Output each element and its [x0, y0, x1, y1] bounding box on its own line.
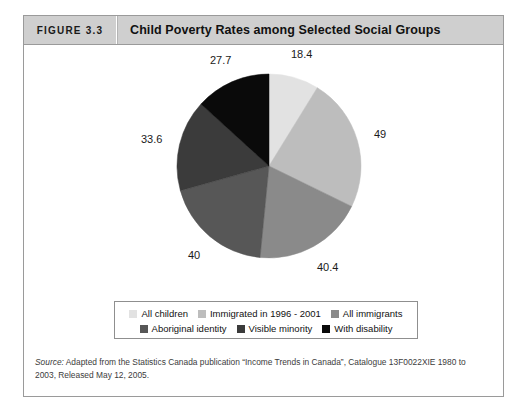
source-note: Source: Adapted from the Statistics Cana… [35, 356, 487, 381]
pie-chart [176, 73, 362, 259]
legend-row: All childrenImmigrated in 1996 - 2001All… [123, 306, 409, 321]
pie-slice-group [177, 74, 361, 258]
pie-slice-value-label: 40.4 [317, 261, 338, 273]
legend-item: Aboriginal identity [140, 323, 227, 334]
legend-item: With disability [322, 323, 392, 334]
legend-color-swatch [331, 310, 339, 318]
legend-item-label: Visible minority [249, 323, 313, 334]
legend-color-swatch [322, 325, 330, 333]
pie-slice-value-label: 27.7 [210, 54, 231, 66]
legend-color-swatch [129, 310, 137, 318]
pie-slice-value-label: 40 [188, 249, 200, 261]
legend-item: All immigrants [331, 308, 403, 319]
legend-item: Immigrated in 1996 - 2001 [198, 308, 321, 319]
source-label: Source: [35, 357, 64, 367]
chart-legend: All childrenImmigrated in 1996 - 2001All… [114, 301, 418, 339]
pie-slice-value-label: 33.6 [141, 133, 162, 145]
source-text: Adapted from the Statistics Canada publi… [35, 357, 466, 380]
pie-slice-value-label: 18.4 [291, 48, 312, 60]
legend-item-label: Immigrated in 1996 - 2001 [210, 308, 321, 319]
legend-item-label: Aboriginal identity [152, 323, 227, 334]
legend-item: Visible minority [237, 323, 313, 334]
legend-item-label: All immigrants [343, 308, 403, 319]
legend-color-swatch [237, 325, 245, 333]
pie-slice-value-label: 49 [374, 128, 386, 140]
figure-header: FIGURE 3.3 Child Poverty Rates among Sel… [24, 16, 503, 45]
figure-container: FIGURE 3.3 Child Poverty Rates among Sel… [23, 15, 504, 397]
figure-number-label: FIGURE 3.3 [24, 16, 117, 44]
legend-color-swatch [140, 325, 148, 333]
chart-area: 18.44940.44033.627.7 All childrenImmigra… [24, 45, 503, 347]
legend-item-label: All children [141, 308, 187, 319]
legend-row: Aboriginal identityVisible minorityWith … [123, 321, 409, 336]
pie-chart-svg [176, 73, 362, 259]
legend-item-label: With disability [334, 323, 392, 334]
figure-title: Child Poverty Rates among Selected Socia… [117, 16, 503, 44]
legend-item: All children [129, 308, 187, 319]
legend-color-swatch [198, 310, 206, 318]
